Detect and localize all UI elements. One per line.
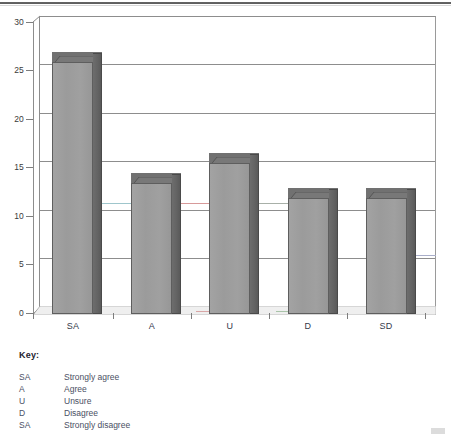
- y-tick-label-25: 25: [2, 65, 24, 75]
- bar-sa[interactable]: [52, 52, 102, 314]
- y-tick-label-5: 5: [2, 259, 24, 269]
- x-tick-mark-2: [191, 313, 192, 319]
- bar-d[interactable]: [288, 188, 338, 314]
- bar-u-front: [209, 163, 250, 314]
- bar-a-side: [172, 174, 181, 314]
- y-axis-line: [33, 22, 34, 314]
- bar-chart-figure: 30 25 20 15 10 5 0 SA A U D SD: [0, 0, 451, 340]
- x-axis-label-sa: SA: [53, 321, 93, 331]
- y-tick-mark-20: [26, 119, 33, 120]
- y-tick-label-15: 15: [2, 162, 24, 172]
- bar-sa-side: [93, 53, 102, 314]
- key-desc-a: Agree: [64, 384, 87, 394]
- bar-sd-front: [366, 198, 407, 314]
- scan-artifact: [431, 428, 445, 434]
- y-tick-label-20: 20: [2, 114, 24, 124]
- scan-tint-fragment-blue: [414, 255, 436, 256]
- key-desc-d: Disagree: [64, 408, 98, 418]
- bar-sa-front: [52, 62, 93, 314]
- bar-sd[interactable]: [366, 188, 416, 314]
- key-desc-sa: Strongly agree: [64, 372, 119, 382]
- key-title: Key:: [19, 350, 39, 360]
- bar-u[interactable]: [209, 153, 259, 314]
- key-abbr-sa: SA: [19, 372, 59, 382]
- y-tick-mark-25: [26, 70, 33, 71]
- plot-area: 30 25 20 15 10 5 0 SA A U D SD: [0, 0, 451, 340]
- x-axis-label-sd: SD: [366, 321, 406, 331]
- chart-key: Key: SA Strongly agree A Agree U Unsure …: [0, 344, 451, 439]
- x-tick-mark-4: [347, 313, 348, 319]
- x-tick-mark-3: [269, 313, 270, 319]
- y-tick-label-0: 0: [2, 308, 24, 318]
- y-tick-label-10: 10: [2, 211, 24, 221]
- gridline-30: [39, 16, 435, 17]
- x-tick-mark-0: [33, 313, 34, 319]
- x-tick-mark-1: [113, 313, 114, 319]
- key-abbr-d: D: [19, 408, 59, 418]
- y-tick-label-30: 30: [2, 17, 24, 27]
- key-abbr-u: U: [19, 396, 59, 406]
- y-tick-mark-0: [26, 313, 33, 314]
- bar-u-side: [250, 154, 259, 314]
- y-tick-mark-10: [26, 216, 33, 217]
- y-tick-mark-5: [26, 264, 33, 265]
- bar-d-front: [288, 198, 329, 314]
- x-axis-label-a: A: [132, 321, 172, 331]
- x-tick-mark-5: [425, 313, 426, 319]
- bar-d-side: [329, 189, 338, 314]
- x-axis-label-u: U: [210, 321, 250, 331]
- y-tick-mark-30: [26, 22, 33, 23]
- bar-sd-side: [407, 189, 416, 314]
- bar-a-front: [131, 183, 172, 314]
- x-axis-label-d: D: [288, 321, 328, 331]
- key-desc-u: Unsure: [64, 396, 91, 406]
- key-desc-sd: Strongly disagree: [64, 420, 130, 430]
- key-abbr-sd: SA: [19, 420, 59, 430]
- key-abbr-a: A: [19, 384, 59, 394]
- bar-a[interactable]: [131, 173, 181, 314]
- y-tick-mark-15: [26, 167, 33, 168]
